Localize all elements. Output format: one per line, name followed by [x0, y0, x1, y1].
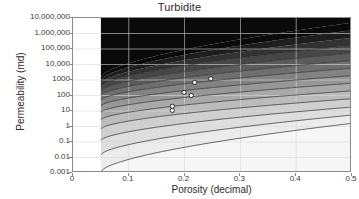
- y-axis-title: Permeability (md): [15, 22, 26, 162]
- x-axis-tick-labels: 00.10.20.30.40.5: [0, 0, 359, 199]
- x-tick-mark-3: [239, 173, 240, 176]
- x-tick-mark-0: [72, 173, 73, 176]
- x-tick-mark-2: [184, 173, 185, 176]
- x-tick-mark-4: [295, 173, 296, 176]
- x-tick-mark-5: [351, 173, 352, 176]
- x-axis-title: Porosity (decimal): [72, 184, 351, 195]
- x-tick-label-5: 0.5: [331, 174, 359, 183]
- chart-figure: Turbidite 10,000,0001,000,000100,00010,0…: [0, 0, 359, 199]
- x-tick-mark-1: [128, 173, 129, 176]
